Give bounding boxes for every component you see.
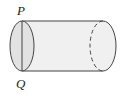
- cylinder-diagram: P Q: [0, 0, 126, 95]
- label-q: Q: [16, 76, 26, 91]
- cylinder-body: [22, 21, 116, 71]
- label-p: P: [16, 3, 25, 18]
